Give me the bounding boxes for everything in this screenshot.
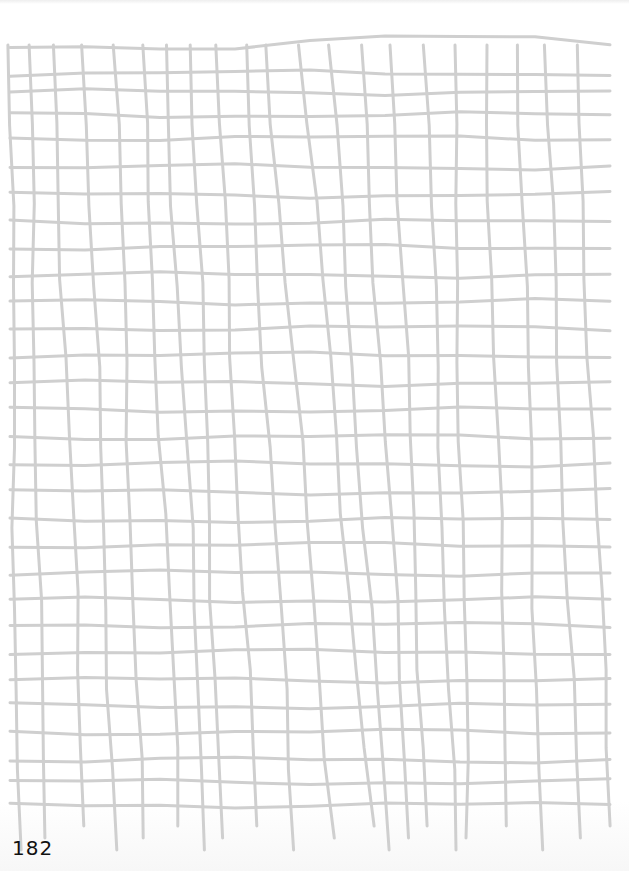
grid-column-line	[29, 45, 45, 838]
grid-column-line	[362, 45, 409, 838]
hand-drawn-grid	[0, 0, 629, 871]
grid-row-line	[10, 326, 610, 331]
grid-column-line	[113, 45, 143, 838]
grid-row-line	[10, 703, 610, 709]
scanned-page: 182	[0, 0, 629, 871]
grid-row-line	[10, 757, 610, 763]
grid-row-line	[10, 623, 610, 628]
grid-row-line	[10, 489, 610, 496]
grid-column-line	[53, 45, 83, 826]
grid-row-line	[10, 272, 610, 279]
grid-row-line	[10, 597, 610, 603]
grid-row-line	[10, 244, 610, 250]
grid-row-line	[10, 299, 610, 305]
grid-column-line	[8, 45, 21, 850]
grid-row-line	[10, 803, 610, 808]
grid-row-line	[10, 678, 610, 684]
grid-column-line	[517, 45, 542, 850]
grid-row-line	[10, 36, 610, 49]
grid-column-line	[266, 45, 335, 838]
grid-row-line	[10, 219, 610, 224]
grid-column-line	[544, 45, 580, 838]
page-number: 182	[12, 836, 53, 860]
grid-row-line	[10, 112, 610, 118]
grid-row-line	[10, 779, 610, 785]
grid-row-line	[10, 89, 610, 96]
grid-row-line	[10, 70, 610, 76]
grid-row-line	[10, 518, 610, 523]
grid-row-line	[10, 649, 610, 654]
grid-row-line	[10, 192, 610, 199]
grid-row-line	[10, 729, 610, 734]
grid-column-line	[577, 45, 610, 826]
grid-column-line	[455, 45, 468, 838]
